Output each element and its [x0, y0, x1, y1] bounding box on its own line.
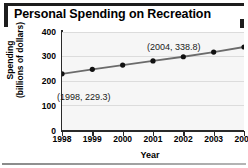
chart-figure: Personal Spending on Recreation Spending… [0, 0, 248, 168]
x-tick-label-2003: 2003 [199, 134, 229, 144]
annotation-first-point: (1998, 229.3) [57, 92, 111, 102]
y-tick-label-300: 300 [28, 51, 56, 61]
x-tick-label-2001: 2001 [138, 134, 168, 144]
data-point-2002 [181, 54, 186, 59]
y-tick-label-200: 200 [28, 76, 56, 86]
y-tick-label-100: 100 [28, 101, 56, 111]
data-point-1998 [62, 71, 65, 76]
y-axis-title: Spending (billions of dollars) [5, 0, 25, 120]
annotation-last-point: (2004, 338.8) [147, 42, 201, 52]
x-tick-label-1999: 1999 [77, 134, 107, 144]
y-tick-label-400: 400 [28, 27, 56, 37]
data-point-2003 [211, 49, 216, 54]
data-point-2000 [120, 62, 125, 67]
y-axis-title-line1: Spending [5, 0, 15, 120]
title-frame-right-tick [240, 19, 244, 28]
x-axis-title: Year [55, 150, 245, 160]
chart-title: Personal Spending on Recreation [14, 7, 211, 21]
data-point-2004 [241, 44, 244, 49]
bottom-rule [2, 163, 246, 165]
x-tick-label-1998: 1998 [47, 134, 77, 144]
title-bar: Personal Spending on Recreation [4, 3, 244, 27]
x-tick-label-2004: 2004 [229, 134, 248, 144]
data-point-1999 [90, 67, 95, 72]
x-tick-label-2002: 2002 [168, 134, 198, 144]
y-axis-title-line2: (billions of dollars) [15, 0, 25, 120]
title-frame-top-border [4, 3, 244, 6]
x-tick-label-2000: 2000 [108, 134, 138, 144]
data-point-2001 [150, 58, 155, 63]
